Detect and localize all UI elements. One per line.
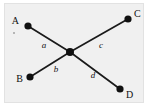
edge-group (28, 19, 128, 89)
node-label-b: B (16, 73, 23, 84)
node-c (124, 15, 131, 22)
edge-a-line (28, 26, 70, 52)
edge-label-d: d (91, 70, 96, 80)
edge-label-a: a (42, 40, 47, 50)
node-center (66, 48, 74, 56)
node-label-d: D (126, 89, 133, 100)
figure-root: A C B D a b c d (0, 0, 148, 111)
edge-label-c: c (99, 40, 103, 50)
node-label-a: A (12, 15, 20, 26)
node-label-c: C (134, 8, 141, 19)
edge-label-b: b (54, 64, 59, 74)
graph-diagram: A C B D a b c d (0, 0, 148, 111)
node-d (116, 85, 123, 92)
node-b (26, 73, 33, 80)
edge-label-group: a b c d (42, 40, 103, 80)
speck-mark (13, 32, 15, 34)
node-a (24, 22, 31, 29)
edge-b-line (30, 52, 70, 77)
